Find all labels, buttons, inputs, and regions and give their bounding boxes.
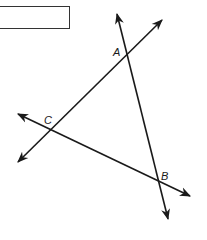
line-AC xyxy=(18,20,162,162)
line-CB xyxy=(18,114,190,196)
point-label-c: C xyxy=(44,114,52,126)
geometry-figure: A B C xyxy=(0,0,207,240)
point-label-b: B xyxy=(161,170,168,182)
point-label-a: A xyxy=(112,46,120,58)
line-AB xyxy=(117,14,168,219)
